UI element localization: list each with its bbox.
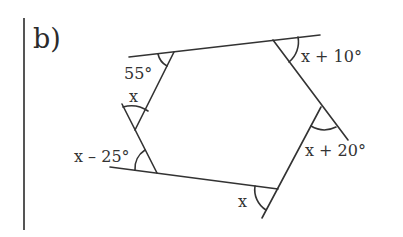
angle-label-top-left: 55° <box>124 64 152 83</box>
angle-label-bottom-right: x <box>238 192 247 211</box>
arc-top-right <box>289 37 298 62</box>
angle-label-left: x <box>129 87 138 106</box>
hexagon-diagram: 55° x x – 25° x x + 20° x + 10° <box>0 0 403 237</box>
arc-top-left <box>158 54 167 66</box>
angle-label-top-right: x + 10° <box>301 47 362 66</box>
lower-right-edge <box>262 107 321 218</box>
angle-label-right: x + 20° <box>305 141 366 160</box>
arc-bottom-right <box>255 186 266 210</box>
angle-label-bottom-left: x – 25° <box>74 147 130 166</box>
arc-right <box>311 126 336 130</box>
arc-bottom-left <box>135 150 145 170</box>
